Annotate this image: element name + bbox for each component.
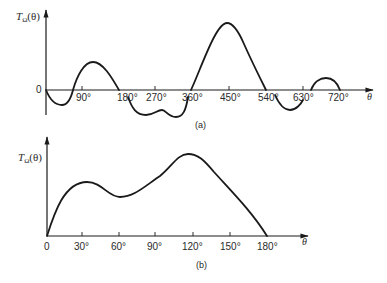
x-ticks-b: 30° 60° 90° 120° 150° 180° [74, 232, 278, 252]
tick-label: 60° [111, 241, 126, 252]
tick-label: 450° [220, 92, 241, 103]
tick-label: 90° [147, 241, 162, 252]
x-ticks-a: 90° 180° 270° 360° 450° 540° 630° 720° [76, 86, 349, 103]
tick-label: 270° [146, 92, 167, 103]
tick-label: 150° [220, 241, 241, 252]
panel-b: TΩ(θ) 0 θ 30° 60° 90° 120° 150° 180° (b) [18, 137, 308, 270]
zero-label-b: 0 [44, 241, 50, 252]
y-axis-label-a: TΩ(θ) [16, 10, 40, 24]
y-axis-label-b: TΩ(θ) [18, 151, 42, 165]
tick-label: 90° [76, 92, 91, 103]
panel-a: TΩ(θ) 0 θ 90° 180° 270° 360° 450° 540° 6… [16, 10, 373, 130]
theta-label-a: θ [367, 91, 372, 102]
tick-label: 360° [182, 92, 203, 103]
tick-label: 120° [182, 241, 203, 252]
tick-label: 720° [328, 92, 349, 103]
figure: TΩ(θ) 0 θ 90° 180° 270° 360° 450° 540° 6… [0, 0, 387, 283]
tick-label: 30° [74, 241, 89, 252]
tick-label: 630° [293, 92, 314, 103]
caption-a: (a) [195, 120, 206, 130]
torque-curve-b [47, 154, 267, 236]
caption-b: (b) [196, 260, 207, 270]
zero-label-a: 0 [36, 84, 42, 95]
theta-label-b: θ [302, 236, 307, 247]
tick-label: 180° [257, 241, 278, 252]
